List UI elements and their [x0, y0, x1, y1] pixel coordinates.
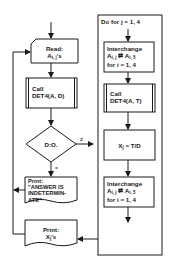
interchange-range: for i = 1, 4: [107, 61, 155, 68]
interchange-keyword: Interchange: [107, 45, 155, 52]
equal-branch-label: =: [55, 165, 58, 172]
interchange-expression: Ai, j ⇄ Ai, 5: [107, 52, 155, 61]
interchange-keyword: Interchange: [107, 180, 155, 187]
message-line-3: ATE": [28, 197, 78, 203]
print-indeterminate-label: Print: "ANSWER IS INDETERMIN- ATE": [28, 178, 78, 203]
flowchart-lines: [0, 0, 173, 262]
read-title: Read:: [31, 45, 78, 52]
interchange-1-label: Interchange Ai, j ⇄ Ai, 5 for i = 1, 4: [107, 45, 155, 68]
do-loop-label: Do for j = 1, 4: [101, 18, 161, 25]
print-keyword: Print:: [25, 226, 77, 233]
not-equal-branch-label: ≠: [80, 136, 83, 143]
call-det4-t-label: Call DET4(A, T): [110, 90, 154, 104]
print-x-label: Print: Xj's: [25, 226, 77, 242]
assign-label: Xj = T/D: [104, 142, 155, 151]
interchange-expression: Ai, j ⇄ Ai, 5: [107, 187, 155, 196]
interchange-range: for i = 1, 4: [107, 196, 155, 203]
call-det4-d-label: Call DET4(A, D): [32, 85, 76, 99]
interchange-2-label: Interchange Ai, j ⇄ Ai, 5 for i = 1, 4: [107, 180, 155, 203]
call-keyword: Call: [110, 90, 154, 97]
call-keyword: Call: [32, 85, 76, 92]
read-box-label: Read: Ai, j's: [31, 45, 78, 61]
decision-label: D:O.: [30, 141, 72, 148]
print-variable: Xj's: [25, 233, 77, 242]
call-routine: DET4(A, D): [32, 92, 76, 99]
call-routine: DET4(A, T): [110, 97, 154, 104]
read-variable: Ai, j's: [31, 52, 78, 61]
